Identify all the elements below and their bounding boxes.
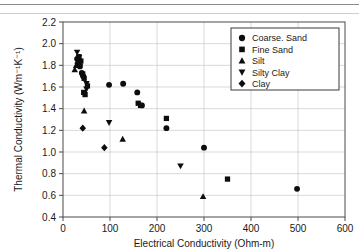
data-point bbox=[134, 89, 140, 95]
data-point bbox=[177, 163, 184, 169]
data-point bbox=[120, 81, 126, 87]
data-point bbox=[201, 145, 207, 151]
x-tick-label: 300 bbox=[196, 223, 213, 234]
data-point bbox=[82, 92, 87, 97]
y-tick-label: 1.2 bbox=[42, 125, 56, 136]
x-tick-label: 100 bbox=[102, 223, 119, 234]
y-tick-label: 0.4 bbox=[42, 212, 56, 223]
x-axis-ticks bbox=[63, 217, 345, 221]
x-tick-label: 0 bbox=[60, 223, 66, 234]
figure-container: 0.40.60.81.01.21.41.61.82.02.2 010020030… bbox=[0, 0, 359, 252]
page-rule-top bbox=[0, 4, 359, 5]
y-tick-label: 1.6 bbox=[42, 82, 56, 93]
series-clay bbox=[75, 56, 108, 151]
y-axis-ticks bbox=[59, 22, 63, 217]
data-point bbox=[294, 186, 300, 192]
series-silty-clay bbox=[74, 50, 184, 170]
x-tick-label: 400 bbox=[243, 223, 260, 234]
x-axis-title: Electrical Conductivity (Ohm-m) bbox=[134, 238, 275, 249]
data-point bbox=[163, 125, 169, 131]
data-point bbox=[138, 103, 143, 108]
y-tick-label: 0.8 bbox=[42, 168, 56, 179]
y-tick-label: 1.0 bbox=[42, 147, 56, 158]
legend-label: Silt bbox=[252, 56, 265, 66]
series-fine-sand bbox=[76, 54, 230, 182]
data-point bbox=[119, 136, 126, 142]
legend-marker bbox=[239, 47, 245, 53]
x-axis-ticklabels: 0100200300400500600 bbox=[60, 223, 354, 234]
legend-marker bbox=[239, 35, 245, 41]
y-tick-label: 1.4 bbox=[42, 103, 56, 114]
y-tick-label: 0.6 bbox=[42, 190, 56, 201]
y-axis-ticklabels: 0.40.60.81.01.21.41.61.82.02.2 bbox=[42, 17, 56, 223]
legend-label: Clay bbox=[252, 79, 271, 89]
series-silt bbox=[71, 58, 206, 199]
data-point bbox=[225, 176, 230, 181]
x-tick-label: 600 bbox=[337, 223, 354, 234]
y-axis-title: Thermal Conductivity (Wm⁻¹K⁻¹) bbox=[13, 47, 24, 191]
data-point bbox=[164, 116, 169, 121]
data-point bbox=[200, 193, 207, 199]
legend-label: Coarse. Sand bbox=[252, 33, 307, 43]
y-tick-label: 2.0 bbox=[42, 38, 56, 49]
x-tick-label: 200 bbox=[149, 223, 166, 234]
legend-label: Fine Sand bbox=[252, 45, 293, 55]
y-tick-label: 2.2 bbox=[42, 17, 56, 28]
page-rule-secondary bbox=[0, 13, 359, 14]
data-point bbox=[101, 144, 108, 151]
data-point bbox=[106, 120, 113, 126]
y-tick-label: 1.8 bbox=[42, 60, 56, 71]
scatter-plot: 0.40.60.81.01.21.41.61.82.02.2 010020030… bbox=[0, 0, 359, 252]
data-point bbox=[106, 82, 112, 88]
data-point bbox=[82, 76, 87, 81]
legend: Coarse. SandFine SandSiltSilty ClayClay bbox=[231, 28, 339, 90]
x-tick-label: 500 bbox=[290, 223, 307, 234]
legend-label: Silty Clay bbox=[252, 68, 290, 78]
